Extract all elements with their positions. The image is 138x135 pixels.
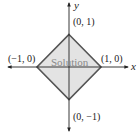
vertex-label-top: (0, 1) (73, 16, 95, 28)
solution-label: Solution (51, 56, 89, 68)
vertex-label-right: (1, 0) (101, 53, 123, 65)
vertex-label-left: (−1, 0) (8, 53, 35, 65)
x-axis-label: x (130, 60, 136, 72)
y-axis-label: y (73, 0, 79, 11)
vertex-label-bottom: (0, −1) (73, 111, 100, 123)
coordinate-diagram: x y Solution (0, 1) (1, 0) (0, −1) (−1, … (0, 0, 138, 135)
